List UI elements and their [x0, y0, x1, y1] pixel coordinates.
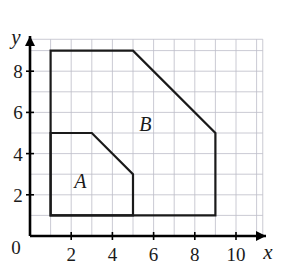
region-label-b: B	[139, 113, 151, 135]
y-tick-label: 4	[13, 144, 23, 165]
y-tick-label: 2	[13, 185, 23, 206]
y-tick-label: 8	[13, 61, 23, 82]
y-tick-label: 6	[13, 102, 23, 123]
origin-label: 0	[11, 237, 21, 258]
region-label-a: A	[72, 170, 87, 192]
figure-background	[0, 0, 282, 270]
coordinate-diagram: 2468102468 BA 0 x y	[0, 0, 282, 270]
x-tick-label: 2	[66, 244, 76, 265]
x-tick-label: 8	[190, 244, 200, 265]
figure-container: 2468102468 BA 0 x y	[0, 0, 282, 270]
x-tick-label: 4	[108, 244, 118, 265]
x-tick-label: 10	[227, 244, 246, 265]
x-tick-label: 6	[149, 244, 159, 265]
y-axis-label: y	[9, 25, 21, 49]
x-axis-label: x	[262, 240, 273, 264]
